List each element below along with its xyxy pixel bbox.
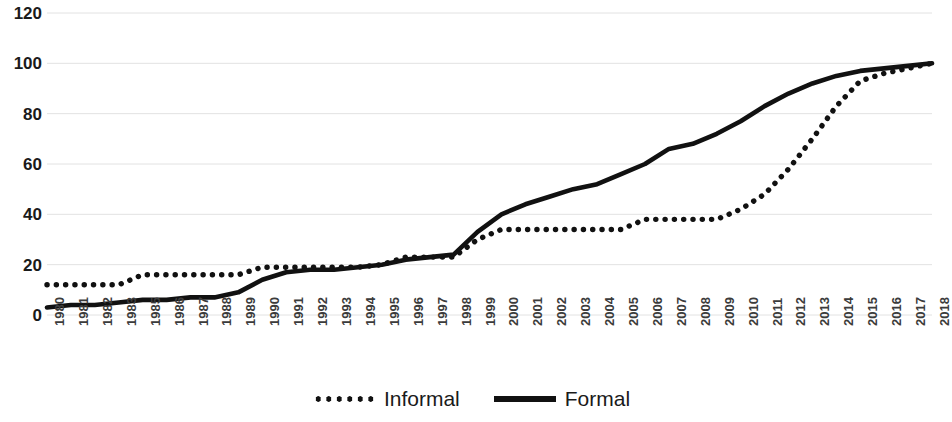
x-axis-tick-label: 1985 — [148, 297, 163, 326]
x-axis-tick-label: 2016 — [889, 297, 904, 326]
x-axis-tick-label: 1990 — [267, 297, 282, 326]
dotted-line-marker-icon — [313, 396, 375, 402]
x-axis-tick-label: 2012 — [793, 297, 808, 326]
x-axis-tick-label: 1992 — [315, 297, 330, 326]
x-axis-tick-label: 2014 — [841, 297, 856, 326]
x-axis-tick-label: 2000 — [506, 297, 521, 326]
x-axis-tick-label: 2009 — [722, 297, 737, 326]
x-axis-tick-label: 1997 — [435, 297, 450, 326]
x-axis-tick-label: 2013 — [817, 297, 832, 326]
x-axis-tick-label: 1986 — [172, 297, 187, 326]
chart-legend: Informal Formal — [0, 388, 943, 409]
x-axis-tick-label: 1999 — [483, 297, 498, 326]
x-axis-tick-label: 2006 — [650, 297, 665, 326]
x-axis-tick-label: 2007 — [674, 297, 689, 326]
x-axis-tick-label: 2018 — [937, 297, 952, 326]
x-axis-tick-label: 1991 — [291, 297, 306, 326]
solid-line-marker-icon — [494, 396, 556, 402]
x-axis-tick-label: 2005 — [626, 297, 641, 326]
x-axis-tick-label: 2015 — [865, 297, 880, 326]
x-axis-tick-label: 1988 — [219, 297, 234, 326]
legend-label-formal: Formal — [565, 388, 630, 409]
x-axis-tick-label: 1994 — [363, 297, 378, 326]
x-axis-tick-label: 2008 — [698, 297, 713, 326]
x-axis-tick-label: 2003 — [578, 297, 593, 326]
x-axis-tick-label: 2004 — [602, 297, 617, 326]
x-axis-tick-label: 1998 — [459, 297, 474, 326]
x-axis-tick-label: 1995 — [387, 297, 402, 326]
x-axis-tick-label: 1981 — [76, 297, 91, 326]
x-axis-tick-label: 2017 — [913, 297, 928, 326]
legend-item-formal[interactable]: Formal — [494, 388, 630, 409]
x-axis-tick-label: 1996 — [411, 297, 426, 326]
x-axis-tick-label: 1982 — [100, 297, 115, 326]
x-axis-tick-label: 2011 — [770, 298, 785, 326]
x-axis-tick-label: 1983 — [124, 297, 139, 326]
x-axis-tick-label: 1980 — [52, 297, 67, 326]
x-axis-tick-label: 1993 — [339, 297, 354, 326]
x-axis-tick-label: 2010 — [746, 297, 761, 326]
x-axis-tick-label: 2002 — [554, 297, 569, 326]
legend-label-informal: Informal — [384, 388, 460, 409]
x-axis-tick-label: 2001 — [530, 297, 545, 326]
x-axis-tick-label: 1987 — [196, 297, 211, 326]
legend-item-informal[interactable]: Informal — [313, 388, 460, 409]
x-axis-tick-label: 1989 — [243, 297, 258, 326]
